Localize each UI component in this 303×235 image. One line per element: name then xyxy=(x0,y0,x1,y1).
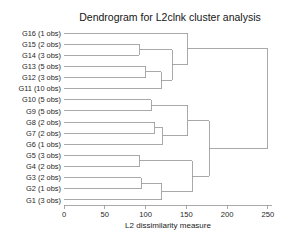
x-tick-label-150: 150 xyxy=(180,210,193,219)
dendrogram-figure: Dendrogram for L2clnk cluster analysis G… xyxy=(0,0,303,235)
x-tick-label-250: 250 xyxy=(262,210,275,219)
x-axis-title: L2 dissimilarity measure xyxy=(125,221,211,230)
dendrogram-branches xyxy=(64,33,268,200)
leaf-label-g16: G16 (1 obs) xyxy=(22,29,61,38)
leaf-label-g12: G12 (3 obs) xyxy=(22,73,61,82)
leaf-label-g7: G7 (2 obs) xyxy=(26,129,61,138)
leaf-label-g2: G2 (1 obs) xyxy=(26,184,61,193)
leaf-label-g9: G9 (5 obs) xyxy=(26,107,61,116)
x-tick-label-200: 200 xyxy=(221,210,234,219)
leaf-label-g8: G8 (2 obs) xyxy=(26,118,61,127)
leaf-label-g1: G1 (3 obs) xyxy=(26,196,61,205)
leaf-label-g14: G14 (3 obs) xyxy=(22,51,61,60)
leaf-label-g6: G6 (1 obs) xyxy=(26,140,61,149)
leaf-label-g3: G3 (2 obs) xyxy=(26,173,61,182)
leaf-label-g10: G10 (5 obs) xyxy=(22,95,61,104)
leaf-label-g15: G15 (2 obs) xyxy=(22,40,61,49)
x-axis-ticks: 050100150200250 xyxy=(62,205,274,219)
x-tick-label-50: 50 xyxy=(101,210,109,219)
leaf-label-g11: G11 (10 obs) xyxy=(18,84,61,93)
leaf-label-group: G16 (1 obs)G15 (2 obs)G14 (3 obs)G13 (5 … xyxy=(18,29,61,205)
leaf-label-g5: G5 (3 obs) xyxy=(26,151,61,160)
leaf-label-g13: G13 (5 obs) xyxy=(22,62,61,71)
leaf-label-g4: G4 (2 obs) xyxy=(26,162,61,171)
chart-title: Dendrogram for L2clnk cluster analysis xyxy=(79,11,261,23)
dendrogram-canvas: Dendrogram for L2clnk cluster analysis G… xyxy=(0,0,303,235)
x-tick-label-0: 0 xyxy=(62,210,66,219)
x-tick-label-100: 100 xyxy=(139,210,152,219)
